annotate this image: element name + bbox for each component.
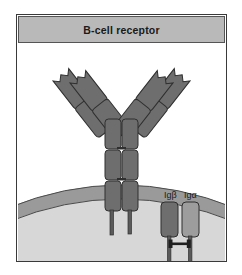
antibody-transmembrane-tail-left	[110, 210, 113, 235]
diagram-canvas: Igβ Igα	[18, 44, 225, 261]
stem-domain-right-2	[122, 150, 138, 180]
figure-frame: B-cell receptor	[16, 14, 227, 262]
ig-alpha-domain	[182, 202, 199, 237]
ig-beta-domain	[161, 202, 178, 237]
figure-title-band: B-cell receptor	[18, 16, 225, 43]
antibody-transmembrane-tail-right	[128, 210, 131, 234]
stem-domain-right-3	[122, 181, 138, 211]
ig-alpha-label: Igα	[184, 190, 197, 200]
disulfide-bond-cap-left	[169, 240, 173, 249]
b-cell-receptor-diagram	[18, 44, 225, 261]
disulfide-bond-cap-right	[187, 240, 191, 249]
page-title: B-cell receptor	[83, 24, 160, 36]
hinge-disulfide-lower	[117, 178, 126, 181]
stem-domain-left-3	[105, 181, 121, 211]
hinge-disulfide-upper	[117, 147, 126, 150]
disulfide-bond-bar	[170, 243, 189, 246]
stem-domain-left-2	[105, 150, 121, 180]
stem-domain-right-1	[122, 119, 138, 149]
ig-beta-label: Igβ	[164, 190, 177, 200]
stem-domain-left-1	[105, 119, 121, 149]
